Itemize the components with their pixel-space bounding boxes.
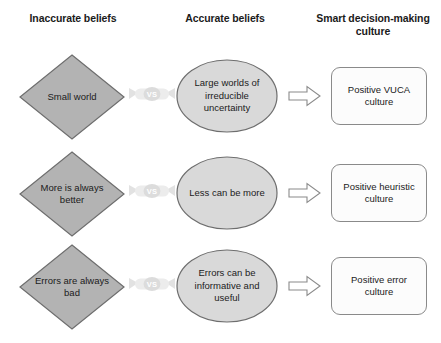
versus-ribbon: VS (129, 272, 175, 296)
arrow-right-icon (288, 85, 321, 107)
culture-outcome-box: Positive error culture (331, 257, 427, 315)
versus-label: VS (129, 179, 175, 203)
flow-arrow (288, 85, 321, 107)
inaccurate-belief-label: More is always better (32, 150, 112, 238)
accurate-belief-label: Large worlds of irreducible uncertainty (184, 59, 270, 133)
arrow-right-icon (288, 182, 321, 204)
versus-label: VS (129, 82, 175, 106)
flow-arrow (288, 275, 321, 297)
diagram-row: More is always better VS Less can be mor… (0, 146, 441, 242)
accurate-belief-ellipse: Errors can be informative and useful (176, 249, 278, 323)
inaccurate-belief-diamond: Errors are always bad (18, 243, 126, 331)
accurate-belief-ellipse: Less can be more (176, 156, 278, 230)
inaccurate-belief-label: Errors are always bad (32, 243, 112, 331)
column-header-accurate-beliefs: Accurate beliefs (165, 12, 285, 25)
versus-ribbon: VS (129, 179, 175, 203)
diagram-row: Small world VS Large worlds of irreducib… (0, 49, 441, 145)
culture-outcome-box: Positive VUCA culture (331, 67, 427, 125)
inaccurate-belief-diamond: Small world (18, 53, 126, 141)
accurate-belief-label: Errors can be informative and useful (184, 249, 270, 323)
versus-ribbon: VS (129, 82, 175, 106)
accurate-belief-label: Less can be more (184, 156, 270, 230)
inaccurate-belief-label: Small world (32, 53, 112, 141)
culture-outcome-box: Positive heuristic culture (331, 164, 427, 222)
column-header-smart-decision-making-culture: Smart decision-making culture (310, 12, 436, 38)
diagram-row: Errors are always bad VS Errors can be i… (0, 239, 441, 335)
inaccurate-belief-diamond: More is always better (18, 150, 126, 238)
accurate-belief-ellipse: Large worlds of irreducible uncertainty (176, 59, 278, 133)
beliefs-culture-diagram: Inaccurate beliefs Accurate beliefs Smar… (0, 0, 441, 343)
versus-label: VS (129, 272, 175, 296)
column-header-inaccurate-beliefs: Inaccurate beliefs (12, 12, 134, 25)
arrow-right-icon (288, 275, 321, 297)
flow-arrow (288, 182, 321, 204)
